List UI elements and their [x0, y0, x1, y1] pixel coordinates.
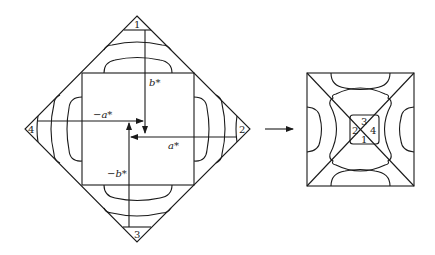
corner-label-top: 1 [134, 19, 140, 30]
center-label-bottom: 1 [361, 134, 367, 145]
corner-label-left: 4 [28, 124, 34, 135]
inner-square [82, 73, 194, 185]
b-star-label: b* [149, 77, 160, 88]
center-label-top: 3 [361, 116, 367, 127]
edge-arc-right [400, 107, 415, 152]
corner-label-bottom: 3 [134, 229, 140, 240]
edge-arc-bottom [331, 170, 390, 187]
center-label-left: 2 [352, 125, 358, 136]
corner-cut-left [37, 116, 38, 142]
contour-left-outer [51, 95, 60, 163]
left-figure: 1 2 3 4 b* −a* a* −b* [25, 16, 250, 242]
corner-cut-right [236, 116, 237, 142]
neg-b-star-label: −b* [107, 168, 127, 179]
center-label-right: 4 [370, 125, 376, 136]
right-figure: 3 2 4 1 [307, 73, 414, 186]
corner-label-right: 2 [239, 124, 245, 135]
edge-arc-left [307, 107, 322, 152]
edge-arc-top [331, 73, 390, 90]
a-star-label: a* [168, 140, 179, 151]
contour-bottom-outer [104, 208, 171, 216]
contour-top-outer [104, 42, 171, 50]
diagram-canvas: 1 2 3 4 b* −a* a* −b* 3 2 4 1 [0, 0, 435, 255]
outer-diamond [25, 16, 250, 242]
contour-right-inner [194, 97, 209, 161]
contour-left-inner [67, 97, 82, 161]
neg-a-star-label: −a* [93, 109, 112, 120]
contour-bottom-inner [104, 185, 172, 201]
contour-top-inner [104, 58, 172, 74]
contour-right-outer [216, 95, 225, 163]
